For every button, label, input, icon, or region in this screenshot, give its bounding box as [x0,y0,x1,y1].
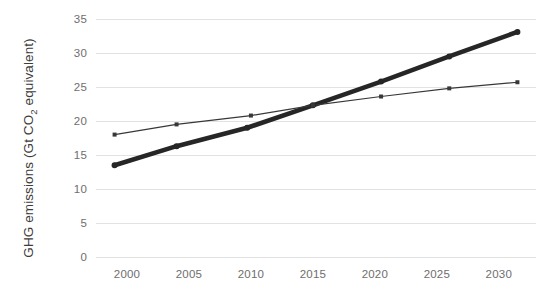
x-tick-label-2025: 2025 [424,268,450,280]
x-tick-label-2020: 2020 [362,268,388,280]
chart-canvas: 05101520253035 2000200520102015202020252… [0,0,547,304]
y-tick-label-0: 0 [80,251,87,263]
data-point-thin-series-2 [249,114,253,118]
y-tick-label-15: 15 [74,149,87,161]
x-tick-label-2030: 2030 [486,268,512,280]
y-tick-label-10: 10 [74,183,87,195]
data-point-thin-series-3 [311,103,315,107]
y-tick-label-30: 30 [74,47,87,59]
x-tick-label-2010: 2010 [238,268,264,280]
x-tick-label-2015: 2015 [300,268,326,280]
data-point-thick-series-6 [514,29,520,35]
data-point-thin-series-5 [447,86,451,90]
y-tick-label-35: 35 [74,13,87,25]
data-point-thick-series-2 [244,125,250,131]
data-point-thick-series-0 [112,162,118,168]
y-axis-title-suffix: equivalent) [21,38,36,109]
data-point-thick-series-1 [174,143,180,149]
y-tick-label-20: 20 [74,115,87,127]
y-tick-label-25: 25 [74,81,87,93]
x-tick-label-2005: 2005 [176,268,202,280]
data-point-thick-series-5 [446,53,452,59]
x-tick-label-2000: 2000 [114,268,140,280]
data-point-thin-series-0 [113,133,117,137]
ghg-emissions-line-chart: 05101520253035 2000200520102015202020252… [0,0,547,304]
data-point-thin-series-4 [379,95,383,99]
data-point-thin-series-6 [515,80,519,84]
y-tick-label-5: 5 [80,217,87,229]
y-axis-title-prefix: GHG emissions (Gt CO [21,115,36,258]
data-point-thin-series-1 [175,122,179,126]
data-point-thick-series-4 [378,79,384,85]
